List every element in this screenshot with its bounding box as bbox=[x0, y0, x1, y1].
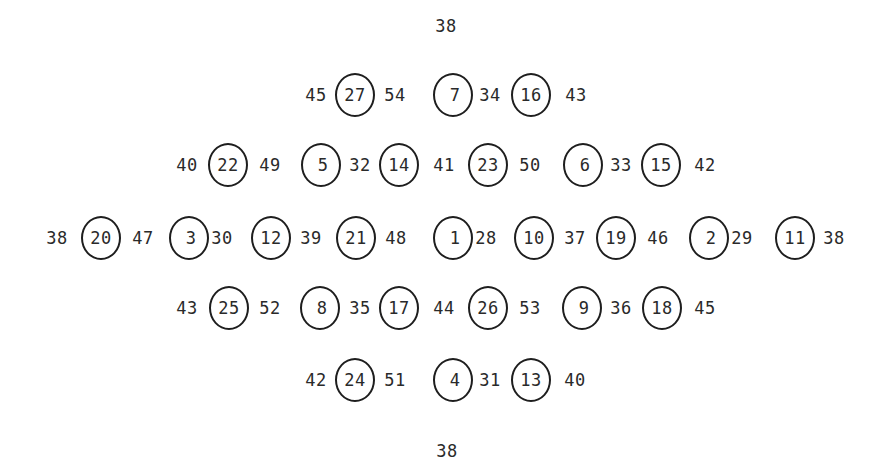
node-number: 19 bbox=[605, 228, 626, 248]
node-circle: 22 bbox=[208, 143, 248, 187]
node-circle: 25 bbox=[209, 286, 249, 330]
edge-value: 43 bbox=[565, 87, 586, 104]
edge-value: 42 bbox=[694, 157, 715, 174]
node-number: 10 bbox=[523, 228, 544, 248]
edge-value: 35 bbox=[349, 300, 370, 317]
node-number: 8 bbox=[317, 298, 328, 318]
node-circle: 16 bbox=[511, 73, 551, 117]
node-number: 26 bbox=[477, 298, 498, 318]
node-number: 1 bbox=[450, 228, 461, 248]
edge-value: 42 bbox=[305, 372, 326, 389]
node-circle: 17 bbox=[379, 286, 419, 330]
node-circle: 2 bbox=[689, 216, 729, 260]
node-circle: 10 bbox=[514, 216, 554, 260]
node-circle: 11 bbox=[775, 216, 815, 260]
edge-value: 34 bbox=[479, 87, 500, 104]
edge-value: 46 bbox=[647, 230, 668, 247]
edge-value: 41 bbox=[433, 157, 454, 174]
node-number: 18 bbox=[651, 298, 672, 318]
edge-value: 48 bbox=[385, 230, 406, 247]
node-number: 22 bbox=[217, 155, 238, 175]
node-number: 17 bbox=[388, 298, 409, 318]
node-number: 4 bbox=[450, 370, 461, 390]
node-number: 3 bbox=[186, 228, 197, 248]
node-circle: 12 bbox=[251, 216, 291, 260]
edge-value: 47 bbox=[132, 230, 153, 247]
node-circle: 26 bbox=[468, 286, 508, 330]
node-circle: 20 bbox=[81, 216, 121, 260]
edge-value: 31 bbox=[479, 372, 500, 389]
edge-value: 37 bbox=[564, 230, 585, 247]
node-circle: 1 bbox=[433, 216, 473, 260]
edge-value: 54 bbox=[384, 87, 405, 104]
edge-value: 49 bbox=[259, 157, 280, 174]
edge-value: 30 bbox=[211, 230, 232, 247]
node-circle: 27 bbox=[335, 73, 375, 117]
node-number: 5 bbox=[318, 155, 329, 175]
node-circle: 19 bbox=[596, 216, 636, 260]
node-circle: 5 bbox=[301, 143, 341, 187]
edge-value: 45 bbox=[694, 300, 715, 317]
edge-value: 32 bbox=[349, 157, 370, 174]
edge-value: 29 bbox=[731, 230, 752, 247]
node-circle: 15 bbox=[641, 143, 681, 187]
edge-value: 45 bbox=[305, 87, 326, 104]
node-circle: 23 bbox=[468, 143, 508, 187]
edge-value: 33 bbox=[610, 157, 631, 174]
node-circle: 4 bbox=[433, 358, 473, 402]
edge-value: 43 bbox=[176, 300, 197, 317]
node-number: 21 bbox=[345, 228, 366, 248]
node-number: 7 bbox=[450, 85, 461, 105]
node-number: 11 bbox=[784, 228, 805, 248]
node-number: 2 bbox=[706, 228, 717, 248]
edge-value: 40 bbox=[564, 372, 585, 389]
node-circle: 3 bbox=[169, 216, 209, 260]
node-circle: 8 bbox=[300, 286, 340, 330]
edge-value: 50 bbox=[519, 157, 540, 174]
edge-value: 38 bbox=[823, 230, 844, 247]
node-number: 27 bbox=[344, 85, 365, 105]
node-circle: 14 bbox=[379, 143, 419, 187]
node-number: 15 bbox=[650, 155, 671, 175]
node-circle: 13 bbox=[511, 358, 551, 402]
node-number: 25 bbox=[218, 298, 239, 318]
edge-value: 53 bbox=[519, 300, 540, 317]
node-circle: 9 bbox=[562, 286, 602, 330]
node-circle: 6 bbox=[563, 143, 603, 187]
node-number: 13 bbox=[520, 370, 541, 390]
node-circle: 7 bbox=[433, 73, 473, 117]
node-number: 23 bbox=[477, 155, 498, 175]
edge-value: 38 bbox=[46, 230, 67, 247]
top-sum-label: 38 bbox=[435, 18, 456, 35]
edge-value: 28 bbox=[475, 230, 496, 247]
node-number: 6 bbox=[580, 155, 591, 175]
edge-value: 51 bbox=[384, 372, 405, 389]
node-number: 16 bbox=[520, 85, 541, 105]
node-circle: 18 bbox=[642, 286, 682, 330]
node-number: 14 bbox=[388, 155, 409, 175]
bottom-sum-label: 38 bbox=[436, 443, 457, 460]
node-number: 24 bbox=[344, 370, 365, 390]
edge-value: 36 bbox=[610, 300, 631, 317]
node-number: 12 bbox=[260, 228, 281, 248]
edge-value: 52 bbox=[259, 300, 280, 317]
node-circle: 21 bbox=[336, 216, 376, 260]
edge-value: 39 bbox=[300, 230, 321, 247]
node-number: 9 bbox=[579, 298, 590, 318]
node-circle: 24 bbox=[335, 358, 375, 402]
edge-value: 44 bbox=[433, 300, 454, 317]
node-number: 20 bbox=[90, 228, 111, 248]
edge-value: 40 bbox=[176, 157, 197, 174]
